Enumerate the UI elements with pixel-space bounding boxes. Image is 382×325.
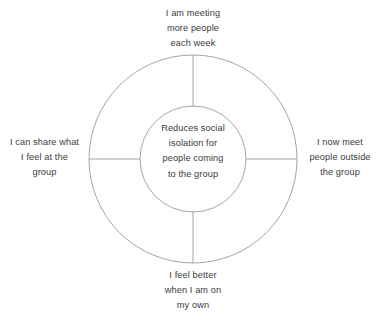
spoke-label-right: I now meet people outside the group xyxy=(298,135,382,181)
spoke-label-left-line-3: group xyxy=(0,165,89,180)
spoke-label-bottom-line-1: I feel better xyxy=(93,268,293,283)
spoke-label-right-line-1: I now meet xyxy=(298,135,382,150)
spoke-label-left-line-1: I can share what xyxy=(0,135,89,150)
spoke-label-right-line-3: the group xyxy=(298,165,382,180)
spoke-label-top: I am meeting more people each week xyxy=(93,6,293,52)
diagram-canvas: Reduces social isolation for people comi… xyxy=(0,0,382,325)
spoke-label-bottom-line-3: my own xyxy=(93,298,293,313)
center-label: Reduces social isolation for people comi… xyxy=(133,121,253,182)
spoke-label-left-line-2: I feel at the xyxy=(0,150,89,165)
spoke-label-right-line-2: people outside xyxy=(298,150,382,165)
spoke-label-top-line-1: I am meeting xyxy=(93,6,293,21)
spoke-label-top-line-3: each week xyxy=(93,36,293,51)
spoke-label-bottom-line-2: when I am on xyxy=(93,283,293,298)
spoke-label-left: I can share what I feel at the group xyxy=(0,135,89,181)
center-label-line-2: isolation for xyxy=(133,136,253,151)
center-label-line-1: Reduces social xyxy=(133,121,253,136)
center-label-line-4: to the group xyxy=(133,167,253,182)
center-label-line-3: people coming xyxy=(133,151,253,166)
spoke-label-top-line-2: more people xyxy=(93,21,293,36)
spoke-label-bottom: I feel better when I am on my own xyxy=(93,268,293,314)
